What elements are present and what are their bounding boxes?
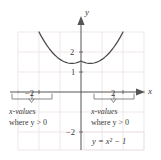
brace-left-label: −2 [25, 89, 34, 98]
caption-right: x-values where y > 0 [91, 106, 129, 128]
brace-right-label: 2 [111, 89, 115, 98]
graph-canvas [0, 0, 161, 160]
caption-right-line2: where y > 0 [91, 117, 129, 128]
y-axis-label: y [85, 8, 89, 17]
caption-left: x-values where y > 0 [9, 106, 47, 128]
x-axis-label: x [148, 87, 152, 96]
caption-left-line1: x-values [9, 106, 47, 117]
caption-right-line1: x-values [91, 106, 129, 117]
caption-left-line2: where y > 0 [9, 117, 47, 128]
y-tick-1: 1 [71, 68, 75, 77]
y-axis [77, 16, 84, 150]
y-tick-2: 2 [70, 48, 74, 57]
parabola-figure: y x 2 1 −2 −2 2 x-values where y > 0 x-v… [0, 0, 161, 160]
y-tick-minus-2: −2 [66, 128, 75, 137]
equation-label: y = x² − 1 [92, 137, 126, 146]
